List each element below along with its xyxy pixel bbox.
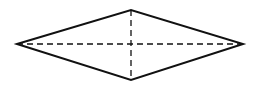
rhombus-outline [17, 10, 243, 80]
diagram-canvas [0, 0, 257, 89]
rhombus-diagram [0, 0, 257, 89]
